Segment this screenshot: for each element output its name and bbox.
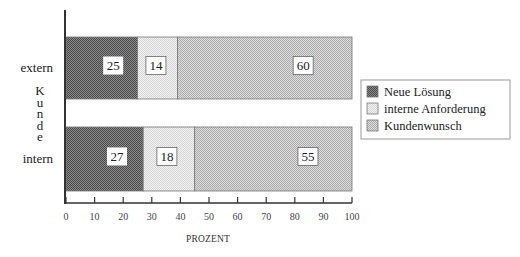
x-tick-label: 30 (147, 211, 157, 222)
value-label: 25 (107, 58, 120, 73)
legend-label: Kundenwunsch (384, 119, 463, 133)
value-label: 27 (110, 149, 124, 164)
value-label: 18 (160, 149, 173, 164)
x-tick-label: 80 (290, 211, 300, 222)
category-label-extern: extern (21, 60, 54, 75)
x-axis-title: PROZENT (186, 234, 230, 244)
x-tick-label: 70 (261, 211, 271, 222)
legend-label: interne Anforderung (384, 102, 486, 116)
value-label: 60 (297, 58, 310, 73)
legend-swatch (367, 120, 378, 131)
y-axis-title: Kunde (35, 83, 45, 144)
x-tick-label: 20 (118, 211, 128, 222)
x-tick-label: 60 (233, 211, 243, 222)
legend-swatch (367, 103, 378, 114)
stacked-bar-chart: 251460271855 externintern Kunde 01020304… (0, 0, 520, 257)
legend: Neue Lösunginterne AnforderungKundenwuns… (361, 80, 510, 139)
bar-segment-intern-0 (66, 127, 143, 191)
x-tick-label: 10 (90, 211, 100, 222)
x-tick-label: 100 (345, 211, 360, 222)
x-tick-label: 90 (318, 211, 328, 222)
x-tick-label: 0 (64, 211, 69, 222)
x-tick-label: 50 (204, 211, 214, 222)
bar-segment-extern-2 (178, 37, 352, 99)
category-label-intern: intern (23, 151, 54, 166)
value-label: 55 (301, 149, 314, 164)
bar-segment-extern-0 (66, 37, 138, 99)
x-axis-ticks: 0102030405060708090100 (64, 197, 360, 222)
x-tick-label: 40 (175, 211, 185, 222)
bars-group: 251460271855 (66, 37, 352, 191)
legend-label: Neue Lösung (384, 85, 452, 99)
y-axis-title-letter: e (37, 129, 43, 144)
bar-segment-intern-2 (195, 127, 352, 191)
legend-swatch (367, 86, 378, 97)
value-label: 14 (149, 58, 163, 73)
